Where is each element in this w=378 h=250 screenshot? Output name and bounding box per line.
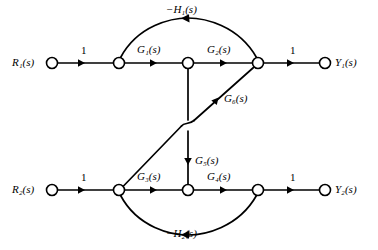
edge-g6-crossing-hop <box>182 121 195 127</box>
node-top-summing-right[interactable] <box>253 58 264 69</box>
signal-flow-graph-figure: R₁(s) Y₁(s) R₂(s) Y₂(s) 1 G₁(s) G₂(s) 1 … <box>0 0 378 250</box>
arrowhead-n3-to-y1 <box>287 59 294 67</box>
node-top-summing-left[interactable] <box>114 58 125 69</box>
node-bottom-summing-right[interactable] <box>253 185 264 196</box>
arrowhead-r1-to-n1 <box>78 59 85 67</box>
node-label-r1: R₁(s) <box>12 57 34 68</box>
edge-label-g4: G₄(s) <box>207 171 230 182</box>
edge-label-h2: −H₂(s) <box>166 228 197 239</box>
node-r2[interactable] <box>47 185 58 196</box>
signal-flow-graph-canvas <box>0 0 378 250</box>
arrowhead-n4-to-n5 <box>150 186 157 194</box>
edge-label-gain-y2: 1 <box>290 172 296 183</box>
node-y1[interactable] <box>320 58 331 69</box>
edge-label-gain-y1: 1 <box>290 45 296 56</box>
edge-label-g5: G₅(s) <box>195 155 218 166</box>
node-r1[interactable] <box>47 58 58 69</box>
arrowhead-n2-to-n3 <box>220 59 227 67</box>
node-bottom-middle[interactable] <box>183 185 194 196</box>
edge-label-g6: G₆(s) <box>224 93 247 104</box>
edge-label-g3: G₃(s) <box>137 171 160 182</box>
node-top-middle[interactable] <box>183 58 194 69</box>
arrowhead-n5-to-n6 <box>220 186 227 194</box>
node-label-y1: Y₁(s) <box>335 57 357 68</box>
edge-label-g2: G₂(s) <box>207 44 230 55</box>
edge-label-g1: G₁(s) <box>137 44 160 55</box>
node-label-y2: Y₂(s) <box>335 184 357 195</box>
node-label-r2: R₂(s) <box>12 184 34 195</box>
node-y2[interactable] <box>320 185 331 196</box>
node-bottom-summing-left[interactable] <box>114 185 125 196</box>
arrowhead-h1-feedback <box>181 14 190 22</box>
arrowhead-n6-to-y2 <box>287 186 294 194</box>
edge-label-gain-r1: 1 <box>81 45 87 56</box>
arrowhead-r2-to-n4 <box>78 186 85 194</box>
edge-label-gain-r2: 1 <box>81 172 87 183</box>
edge-label-h1: −H₁(s) <box>166 4 197 15</box>
arrowhead-n1-to-n2 <box>150 59 157 67</box>
arrowhead-g5 <box>184 158 192 165</box>
